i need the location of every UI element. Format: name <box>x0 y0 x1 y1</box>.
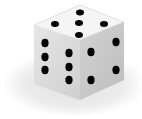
pip <box>76 10 84 16</box>
pip <box>65 49 72 57</box>
pip <box>65 76 72 84</box>
pip <box>75 20 83 26</box>
pip <box>87 76 94 84</box>
pip <box>65 63 72 71</box>
pip <box>112 38 119 46</box>
pip <box>100 21 108 27</box>
pip <box>41 53 48 61</box>
die <box>34 5 124 100</box>
pip <box>112 66 119 74</box>
pip <box>51 21 59 27</box>
pip <box>41 39 48 47</box>
die-illustration <box>0 0 142 119</box>
pip <box>41 66 48 74</box>
pip <box>75 32 83 38</box>
pip <box>87 48 94 56</box>
